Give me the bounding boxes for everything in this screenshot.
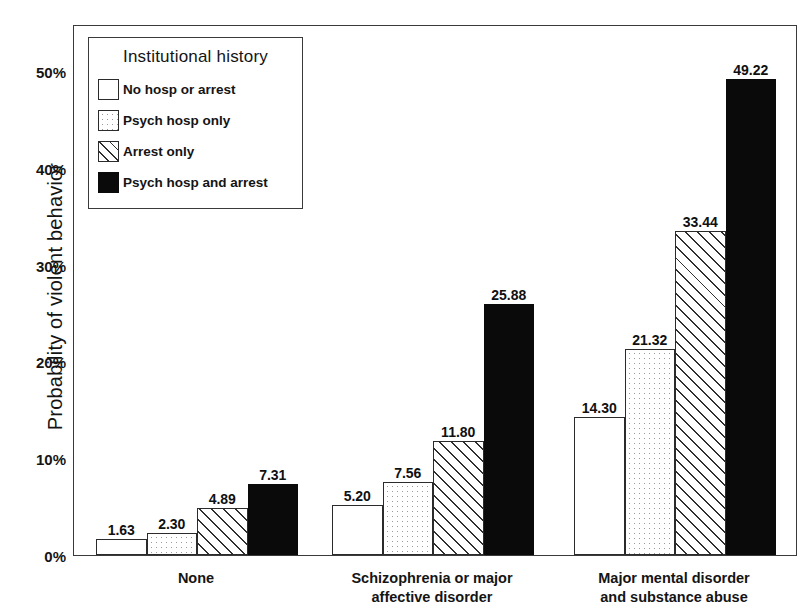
legend-item-label: Arrest only [123, 144, 194, 159]
y-tick-label-40pct: 40% [8, 160, 66, 177]
legend-item-3[interactable]: Psych hosp and arrest [98, 172, 268, 193]
y-tick-label-10pct: 10% [8, 451, 66, 468]
legend-item-2[interactable]: Arrest only [98, 141, 194, 162]
legend-title: Institutional history [89, 47, 302, 67]
y-tick-label-50pct: 50% [8, 64, 66, 81]
legend-swatch-empty-icon [98, 79, 119, 100]
bar-value-label-1-2: 11.80 [441, 424, 475, 440]
x-category-label-1: Schizophrenia or majoraffective disorder [351, 569, 512, 607]
bar-value-label-2-1: 21.32 [632, 332, 667, 348]
x-category-label-line: affective disorder [351, 588, 512, 607]
x-category-label-line: and substance abuse [598, 588, 749, 607]
bar-value-label-0-3: 7.31 [259, 467, 286, 483]
bar-value-label-1-1: 7.56 [394, 465, 421, 481]
bar-value-label-0-2: 4.89 [209, 491, 236, 507]
x-category-label-0: None [178, 569, 214, 588]
plot-area: 1.632.304.897.315.207.5611.8025.8814.302… [73, 25, 797, 556]
bar-value-label-1-3: 25.88 [491, 287, 526, 303]
x-category-label-line: Major mental disorder [598, 569, 749, 588]
x-category-label-line: Schizophrenia or major [351, 569, 512, 588]
y-tick-label-0pct: 0% [8, 548, 66, 565]
bar-value-label-2-0: 14.30 [582, 400, 617, 416]
x-category-label-2: Major mental disorderand substance abuse [598, 569, 749, 607]
bar-group-1-series-3[interactable] [484, 304, 535, 555]
bar-value-label-0-1: 2.30 [158, 516, 185, 532]
bar-group-0-series-0[interactable] [96, 539, 147, 555]
bar-group-2-series-2[interactable] [675, 231, 726, 555]
legend-item-1[interactable]: Psych hosp only [98, 110, 230, 131]
bar-value-label-2-3: 49.22 [733, 62, 768, 78]
bar-group-1-series-1[interactable] [383, 482, 434, 555]
y-tick-label-20pct: 20% [8, 354, 66, 371]
bar-value-label-2-2: 33.44 [683, 214, 718, 230]
bar-group-0-series-1[interactable] [147, 533, 198, 555]
legend-swatch-dotted-icon [98, 110, 119, 131]
legend-swatch-hatch-icon [98, 141, 119, 162]
legend-item-0[interactable]: No hosp or arrest [98, 79, 236, 100]
bar-value-label-1-0: 5.20 [344, 488, 371, 504]
bar-group-0-series-3[interactable] [248, 484, 299, 555]
y-axis-tick-labels: 0%10%20%30%40%50% [0, 0, 66, 610]
bar-group-2-series-3[interactable] [726, 79, 777, 555]
y-tick-label-30pct: 30% [8, 257, 66, 274]
bar-value-label-0-0: 1.63 [108, 522, 135, 538]
bar-group-0-series-2[interactable] [197, 508, 248, 555]
legend-item-label: Psych hosp only [123, 113, 230, 128]
legend-swatch-solid-icon [98, 172, 119, 193]
bar-group-2-series-1[interactable] [625, 349, 676, 555]
x-category-label-line: None [178, 569, 214, 588]
bar-chart-figure: Probability of violent behavior 0%10%20%… [0, 0, 810, 610]
bar-group-1-series-2[interactable] [433, 441, 484, 555]
legend-item-label: Psych hosp and arrest [123, 175, 268, 190]
legend: Institutional history No hosp or arrestP… [88, 37, 303, 209]
bar-group-2-series-0[interactable] [574, 417, 625, 555]
bar-group-1-series-0[interactable] [332, 505, 383, 555]
legend-item-label: No hosp or arrest [123, 82, 236, 97]
